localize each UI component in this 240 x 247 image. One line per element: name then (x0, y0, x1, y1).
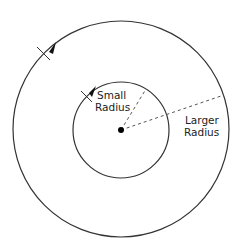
small-radius-label-line2: Radius (95, 101, 130, 113)
larger-radius-label-line2: Radius (184, 126, 219, 138)
center-point (118, 127, 124, 133)
circle-radius-diagram: Small Radius Larger Radius (0, 0, 240, 247)
small-radius-label-line1: Small (97, 89, 126, 101)
inner-direction-arrow-icon (89, 86, 96, 97)
larger-radius-label-line1: Larger (185, 114, 220, 126)
